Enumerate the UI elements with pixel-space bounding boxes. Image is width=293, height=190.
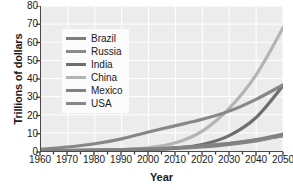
legend-label: China [91,72,117,83]
legend-item-china[interactable]: China [66,71,126,84]
x-axis-tick-labels: 1960197019801990200020102020203020402050 [40,154,283,168]
y-tick-label: 60 [16,39,38,47]
chart-legend: BrazilRussiaIndiaChinaMexicoUSA [62,29,129,113]
legend-swatch-icon [66,63,86,66]
x-tick-label: 2050 [266,154,293,165]
legend-label: Brazil [91,33,116,44]
legend-swatch-icon [66,89,86,92]
legend-item-russia[interactable]: Russia [66,45,126,58]
legend-swatch-icon [66,76,86,79]
y-tick-label: 30 [16,93,38,101]
legend-swatch-icon [66,37,86,40]
legend-label: Mexico [91,85,123,96]
legend-label: USA [91,98,112,109]
legend-label: India [91,59,113,70]
legend-item-usa[interactable]: USA [66,97,126,110]
legend-item-mexico[interactable]: Mexico [66,84,126,97]
legend-swatch-icon [66,50,86,53]
y-tick-label: 70 [16,20,38,28]
y-tick-label: 80 [16,2,38,10]
y-tick-label: 20 [16,112,38,120]
gdp-projection-chart: Trillions of dollars 01020304050607080 1… [0,0,293,190]
x-axis-title: Year [40,171,283,183]
legend-swatch-icon [66,102,86,105]
y-tick-label: 10 [16,130,38,138]
y-tick-label: 40 [16,75,38,83]
y-tick-label: 50 [16,57,38,65]
legend-label: Russia [91,46,122,57]
legend-item-india[interactable]: India [66,58,126,71]
legend-item-brazil[interactable]: Brazil [66,32,126,45]
